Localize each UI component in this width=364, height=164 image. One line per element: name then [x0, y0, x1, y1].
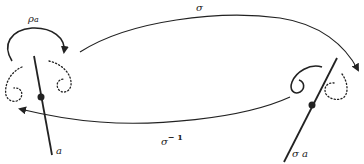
label-sigma-inverse: σ− 1	[161, 137, 183, 147]
label-line-a: a	[56, 146, 62, 156]
point-on-sigma-a	[309, 102, 316, 109]
solid-curl	[291, 66, 322, 93]
sigma-inverse-exponent: − 1	[168, 132, 183, 142]
dotted-curl-sigma	[325, 74, 347, 99]
dotted-curl-left	[6, 67, 22, 101]
sigma-inverse-arrow	[20, 97, 290, 123]
rho-a-arrow	[8, 28, 64, 61]
label-rho-a: ρa	[28, 14, 39, 24]
diagram-canvas: ρa σ σ− 1 a σ a	[0, 0, 364, 164]
sigma-inverse-base: σ	[161, 136, 168, 147]
point-on-a	[38, 94, 45, 101]
label-line-sigma-a: σ a	[292, 149, 308, 159]
line-sigma-a	[284, 58, 337, 162]
line-a	[34, 56, 52, 155]
dotted-curl-right	[49, 61, 71, 92]
rho-subscript: a	[34, 15, 39, 24]
label-sigma: σ	[196, 3, 203, 13]
sigma-arrow	[80, 15, 358, 70]
